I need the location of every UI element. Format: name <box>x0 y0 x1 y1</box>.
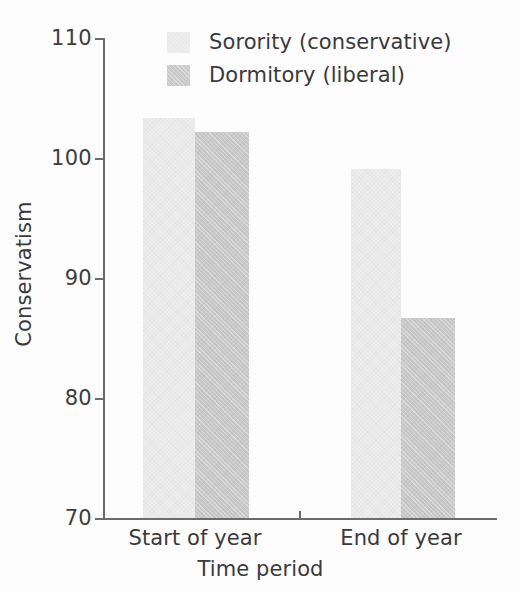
legend-swatch-dormitory-icon <box>167 65 190 86</box>
x-tick-label-end-of-year: End of year <box>322 526 480 550</box>
x-tick-label-start-of-year: Start of year <box>113 526 277 550</box>
legend-item-sorority: Sorority (conservative) <box>167 26 452 59</box>
y-tick-mark-90 <box>95 278 104 280</box>
y-tick-label-100: 100 <box>34 148 92 169</box>
legend: Sorority (conservative) Dormitory (liber… <box>167 26 452 92</box>
legend-label-sorority: Sorority (conservative) <box>209 32 452 53</box>
plot-area <box>104 38 496 518</box>
y-tick-mark-80 <box>95 398 104 400</box>
legend-label-dormitory: Dormitory (liberal) <box>209 65 405 86</box>
x-axis-title: Time period <box>0 557 521 581</box>
y-tick-label-70: 70 <box>34 508 92 529</box>
bar-start-of-year-sorority <box>143 118 195 518</box>
y-tick-label-90: 90 <box>34 268 92 289</box>
bar-end-of-year-dormitory <box>401 318 455 518</box>
legend-item-dormitory: Dormitory (liberal) <box>167 59 452 92</box>
bar-end-of-year-sorority <box>351 169 401 518</box>
y-tick-label-110: 110 <box>34 28 92 49</box>
y-axis-title: Conservatism <box>12 164 36 384</box>
y-tick-mark-100 <box>95 158 104 160</box>
bar-chart: 110 100 90 80 70 Start of year End of ye… <box>0 0 521 593</box>
bar-start-of-year-dormitory <box>195 132 249 518</box>
y-tick-mark-110 <box>95 38 104 40</box>
legend-swatch-sorority-icon <box>167 32 190 53</box>
y-tick-mark-70 <box>95 518 104 520</box>
y-tick-label-80: 80 <box>34 388 92 409</box>
